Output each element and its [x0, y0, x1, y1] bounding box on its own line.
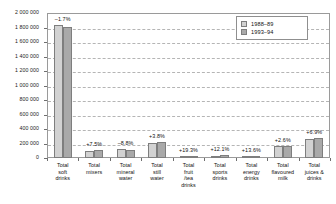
- bar-percentage-label: +12.1%: [210, 147, 229, 152]
- category-label-line: drinks: [45, 175, 81, 182]
- bar-series-1[interactable]: [242, 156, 251, 158]
- bar-series-1[interactable]: [211, 156, 220, 158]
- x-tick-mark: [236, 158, 237, 161]
- x-tick-mark: [78, 158, 79, 161]
- bar-series-1[interactable]: [274, 146, 283, 158]
- bar-percentage-label: +2.6%: [275, 138, 291, 143]
- y-tick-label: 200 000: [20, 141, 39, 146]
- y-tick-label: 2 000 000: [15, 10, 39, 15]
- legend-swatch-icon: [241, 29, 247, 35]
- y-tick-label: 0: [36, 155, 39, 160]
- y-tick-label: 1 600 000: [15, 39, 39, 44]
- x-tick-mark: [330, 158, 331, 161]
- legend-item-series-1[interactable]: 1988–89: [241, 20, 303, 28]
- bar-series-2[interactable]: [283, 146, 292, 158]
- bar-series-2[interactable]: [94, 150, 103, 158]
- bar-series-2[interactable]: [157, 142, 166, 158]
- category-label: Totaljuices &drinks: [296, 162, 332, 182]
- bar-series-1[interactable]: [305, 139, 314, 158]
- bar-series-1[interactable]: [117, 149, 126, 158]
- bar-series-2[interactable]: [189, 156, 198, 158]
- category-label-line: Total: [296, 162, 332, 169]
- bar-percentage-label: +3.8%: [149, 134, 165, 139]
- x-tick-mark: [299, 158, 300, 161]
- x-tick-mark: [141, 158, 142, 161]
- legend-swatch-icon: [241, 21, 247, 27]
- x-tick-mark: [47, 158, 48, 161]
- bar-percentage-label: +13.6%: [242, 148, 261, 153]
- y-tick-label: 400 000: [20, 126, 39, 131]
- bar-series-2[interactable]: [314, 138, 323, 158]
- bar-percentage-label: +6.9%: [306, 130, 322, 135]
- x-tick-mark: [110, 158, 111, 161]
- bar-series-1[interactable]: [148, 143, 157, 158]
- category-label-line: drinks: [171, 182, 207, 189]
- bar-series-2[interactable]: [63, 27, 72, 158]
- y-tick-label: 1 200 000: [15, 68, 39, 73]
- bar-group: [85, 13, 103, 158]
- bar-group: [211, 13, 229, 158]
- legend-item-series-2[interactable]: 1993–94: [241, 28, 303, 36]
- bar-series-2[interactable]: [251, 156, 260, 158]
- y-tick-label: 1 800 000: [15, 25, 39, 30]
- x-tick-mark: [267, 158, 268, 161]
- x-tick-mark: [204, 158, 205, 161]
- y-tick-label: 800 000: [20, 97, 39, 102]
- y-axis: 0200 000400 000600 000800 0001 000 0001 …: [0, 0, 44, 204]
- bar-percentage-label: –1.7%: [55, 17, 71, 22]
- y-tick-label: 1 400 000: [15, 54, 39, 59]
- x-axis-category-labels: TotalsoftdrinksTotalmixersTotalmineralwa…: [47, 162, 330, 204]
- bar-series-1[interactable]: [85, 151, 94, 158]
- bar-series-2[interactable]: [126, 150, 135, 158]
- bar-group: [54, 13, 72, 158]
- bar-chart: 0200 000400 000600 000800 0001 000 0001 …: [0, 0, 336, 204]
- bar-series-2[interactable]: [220, 155, 229, 158]
- y-tick-label: 600 000: [20, 112, 39, 117]
- category-label-line: juices &: [296, 169, 332, 176]
- x-tick-mark: [173, 158, 174, 161]
- bar-group: [117, 13, 135, 158]
- bar-percentage-label: +7.5%: [86, 142, 102, 147]
- legend: 1988–89 1993–94: [236, 16, 308, 40]
- y-tick-label: 1 000 000: [15, 83, 39, 88]
- bar-group: [180, 13, 198, 158]
- legend-label: 1988–89: [251, 21, 273, 27]
- bar-series-1[interactable]: [180, 156, 189, 158]
- bar-percentage-label: –8.8%: [118, 141, 134, 146]
- bar-percentage-label: +19.3%: [179, 148, 198, 153]
- category-label-line: drinks: [296, 175, 332, 182]
- bar-series-1[interactable]: [54, 25, 63, 158]
- legend-label: 1993–94: [251, 29, 273, 35]
